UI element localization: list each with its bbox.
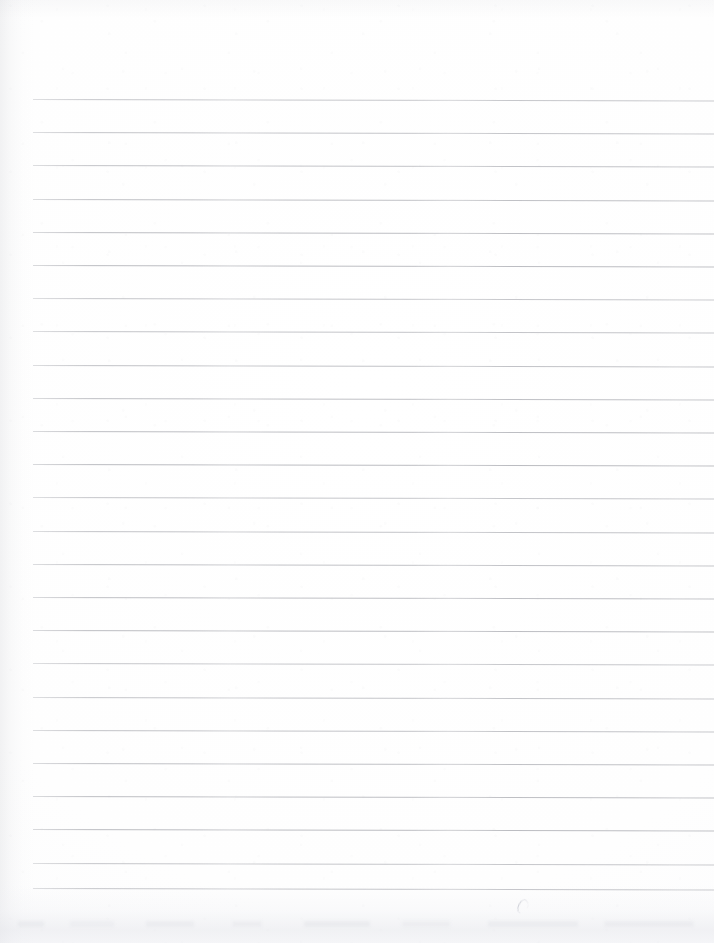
ruled-line bbox=[33, 531, 714, 534]
ruled-line bbox=[33, 829, 714, 832]
ruled-line bbox=[33, 663, 714, 666]
ruled-line bbox=[33, 497, 714, 500]
scanned-page bbox=[0, 0, 714, 943]
ruled-line bbox=[33, 564, 714, 567]
ruled-line bbox=[33, 165, 714, 168]
ruled-line bbox=[33, 132, 714, 135]
ruled-line bbox=[33, 630, 714, 633]
ruled-line bbox=[33, 265, 714, 268]
ruled-line bbox=[33, 697, 714, 700]
ruled-line bbox=[33, 331, 714, 334]
ruled-line bbox=[33, 863, 714, 866]
ruled-line bbox=[33, 365, 714, 368]
bottom-bleed-through-text bbox=[18, 913, 706, 935]
ruled-lines-group bbox=[0, 0, 714, 943]
ruled-line bbox=[33, 431, 714, 434]
ruled-line bbox=[33, 298, 714, 301]
ruled-line bbox=[33, 464, 714, 467]
ruled-line bbox=[33, 199, 714, 202]
ruled-line bbox=[33, 763, 714, 766]
ruled-line bbox=[33, 597, 714, 600]
ruled-line bbox=[33, 730, 714, 733]
ruled-line bbox=[33, 99, 714, 102]
ruled-line bbox=[33, 232, 714, 235]
ruled-line bbox=[33, 398, 714, 401]
ruled-line bbox=[33, 796, 714, 799]
